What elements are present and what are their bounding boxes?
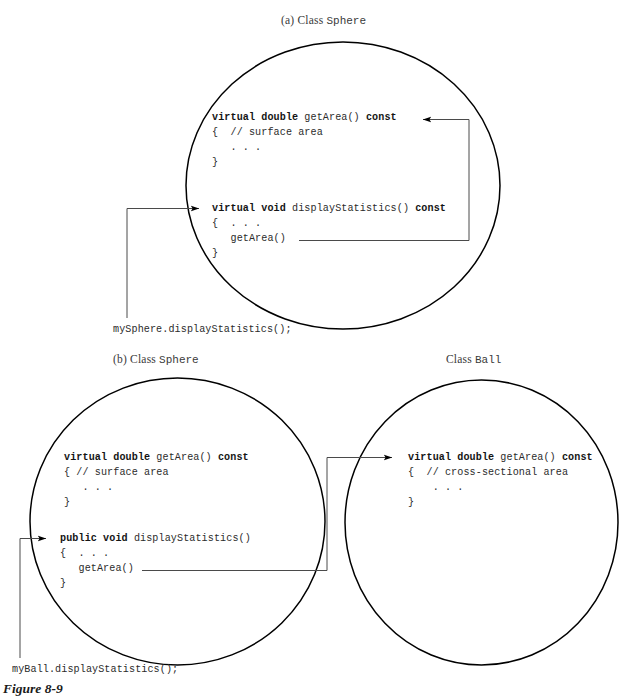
method-b1-sig-mid: displayStatistics() xyxy=(134,533,251,544)
method-a0-sig-post: const xyxy=(366,112,397,123)
figure-label: Figure 8-9 xyxy=(3,681,63,697)
method-b1-body-open: { . . . xyxy=(60,548,109,559)
method-b0-body-open: { // surface area xyxy=(64,467,169,478)
method-block-getarea-sphere-b: virtual double getArea() const { // surf… xyxy=(64,450,249,510)
figure-canvas: (a) Class Sphere virtual double getArea(… xyxy=(0,0,625,700)
panel-b-title2-prefix: Class xyxy=(446,353,475,365)
method-a1-sig-pre: virtual void xyxy=(212,203,292,214)
method-block-displaystatistics-a: virtual void displayStatistics() const {… xyxy=(212,201,446,261)
method-b0-body-close: } xyxy=(64,497,70,508)
panel-b-title-class: Sphere xyxy=(159,354,199,366)
method-block-displaystatistics-sphere-b: public void displayStatistics() { . . . … xyxy=(60,531,251,591)
method-a1-body-close: } xyxy=(212,248,218,259)
panel-b-title-prefix: (b) Class xyxy=(113,353,159,365)
diagram-vector-layer xyxy=(0,0,625,700)
class-circle-sphere-b xyxy=(30,378,325,665)
panel-b-title2-class: Ball xyxy=(475,354,501,366)
method-a1-body-open: { . . . xyxy=(212,218,261,229)
call-site-a: mySphere.displayStatistics(); xyxy=(113,324,292,335)
method-b1-body-close: } xyxy=(60,578,66,589)
method-br0-body-close: } xyxy=(408,497,414,508)
method-a0-sig-pre: virtual double xyxy=(212,112,304,123)
method-a1-body-call: getArea() xyxy=(212,233,286,244)
method-a0-body-dots: . . . xyxy=(212,142,261,153)
panel-a-title-prefix: (a) Class xyxy=(281,14,326,26)
class-circle-sphere-a xyxy=(186,42,500,329)
method-b0-sig-mid: getArea() xyxy=(156,452,218,463)
method-br0-body-dots: . . . xyxy=(408,482,463,493)
method-b1-body-call: getArea() xyxy=(60,563,134,574)
method-a0-body-close: } xyxy=(212,157,218,168)
method-block-getarea-ball-b: virtual double getArea() const { // cros… xyxy=(408,450,593,510)
connector-callsite-a xyxy=(127,209,199,319)
panel-a-title: (a) Class Sphere xyxy=(281,14,366,27)
connector-callsite-b xyxy=(20,539,46,659)
method-b0-sig-post: const xyxy=(218,452,249,463)
panel-b-title-sphere: (b) Class Sphere xyxy=(113,353,199,366)
call-site-b: myBall.displayStatistics(); xyxy=(12,664,178,675)
method-block-getarea-a: virtual double getArea() const { // surf… xyxy=(212,110,397,170)
panel-a-title-class: Sphere xyxy=(326,15,366,27)
method-a0-body-open: { // surface area xyxy=(212,127,323,138)
method-b1-sig-pre: public void xyxy=(60,533,134,544)
method-b0-body-dots: . . . xyxy=(64,482,113,493)
panel-b-title-ball: Class Ball xyxy=(446,353,501,366)
method-a0-sig-mid: getArea() xyxy=(304,112,366,123)
method-b0-sig-pre: virtual double xyxy=(64,452,156,463)
method-a1-sig-post: const xyxy=(415,203,446,214)
method-a1-sig-mid: displayStatistics() xyxy=(292,203,415,214)
method-br0-sig-pre: virtual double xyxy=(408,452,500,463)
method-br0-sig-post: const xyxy=(562,452,593,463)
method-br0-sig-mid: getArea() xyxy=(500,452,562,463)
class-circle-ball-b xyxy=(345,380,618,665)
method-br0-body-open: { // cross-sectional area xyxy=(408,467,568,478)
